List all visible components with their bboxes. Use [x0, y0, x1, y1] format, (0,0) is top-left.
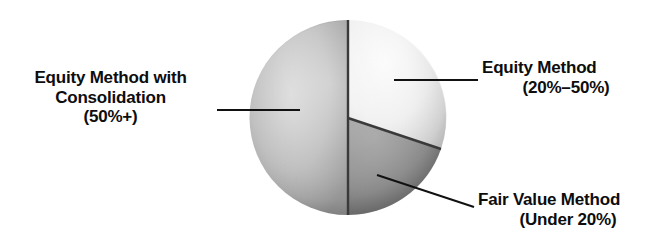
- slice-label-consolidation: Equity Method with Consolidation (50%+): [8, 68, 213, 127]
- slice-label-fair-value-line1: Fair Value Method: [478, 190, 664, 210]
- slice-label-consolidation-line2: Consolidation: [8, 88, 213, 108]
- slice-label-equity-method-line1: Equity Method: [482, 58, 662, 78]
- slice-label-consolidation-line1: Equity Method with: [8, 68, 213, 88]
- slice-label-fair-value: Fair Value Method (Under 20%): [478, 190, 664, 229]
- slice-label-consolidation-range: (50%+): [8, 107, 213, 127]
- slice-label-equity-method-range: (20%–50%): [482, 78, 650, 98]
- slice-label-equity-method: Equity Method (20%–50%): [482, 58, 662, 97]
- pie-chart-figure: Equity Method with Consolidation (50%+) …: [0, 0, 666, 246]
- slice-label-fair-value-range: (Under 20%): [478, 210, 658, 230]
